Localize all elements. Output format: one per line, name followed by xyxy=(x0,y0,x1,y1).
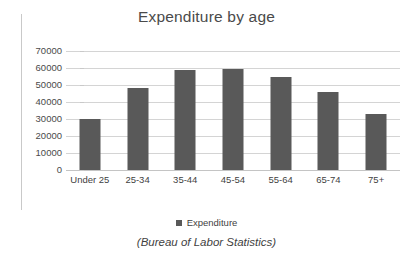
bar-slot xyxy=(161,51,209,170)
chart-title: Expenditure by age xyxy=(0,8,413,26)
bar-slot xyxy=(305,51,353,170)
y-axis-tick-label: 70000 xyxy=(18,46,62,56)
bar[interactable] xyxy=(366,114,387,170)
y-axis-tick-label: 40000 xyxy=(18,97,62,107)
bar-slot xyxy=(209,51,257,170)
y-axis-tick-label: 20000 xyxy=(18,131,62,141)
legend-swatch-icon xyxy=(176,220,182,226)
y-axis-tick-label: 0 xyxy=(18,165,62,175)
y-axis-tick-label: 10000 xyxy=(18,148,62,158)
bar-slot xyxy=(257,51,305,170)
chart-figure: Expenditure by age 700006000050000400003… xyxy=(0,0,413,270)
y-axis-tick-label: 50000 xyxy=(18,80,62,90)
y-axis-tick-label: 30000 xyxy=(18,114,62,124)
x-axis-tick-label: 45-54 xyxy=(209,174,257,186)
y-axis-tick-mark xyxy=(80,170,84,171)
y-axis-labels: 700006000050000400003000020000100000 xyxy=(18,44,62,178)
legend-label: Expenditure xyxy=(187,217,238,228)
bar[interactable] xyxy=(127,88,148,170)
x-axis-tick-label: 35-44 xyxy=(161,174,209,186)
chart-legend: Expenditure xyxy=(0,217,413,228)
axis-baseline xyxy=(66,170,400,171)
y-axis-tick-label: 60000 xyxy=(18,63,62,73)
x-axis-tick-label: 55-64 xyxy=(257,174,305,186)
bar-slot xyxy=(352,51,400,170)
bar[interactable] xyxy=(175,70,196,170)
bar[interactable] xyxy=(270,77,291,170)
chart-caption: (Bureau of Labor Statistics) xyxy=(0,236,413,248)
bars-layer xyxy=(66,51,400,170)
bar[interactable] xyxy=(79,119,100,170)
x-axis-tick-label: 25-34 xyxy=(114,174,162,186)
bar-slot xyxy=(114,51,162,170)
bar[interactable] xyxy=(222,69,243,170)
x-axis-tick-label: 75+ xyxy=(352,174,400,186)
x-axis-tick-label: 65-74 xyxy=(305,174,353,186)
x-axis-labels: Under 2525-3435-4445-5455-6465-7475+ xyxy=(66,174,400,206)
bar-slot xyxy=(66,51,114,170)
x-axis-tick-label: Under 25 xyxy=(66,174,114,186)
bar[interactable] xyxy=(318,92,339,170)
